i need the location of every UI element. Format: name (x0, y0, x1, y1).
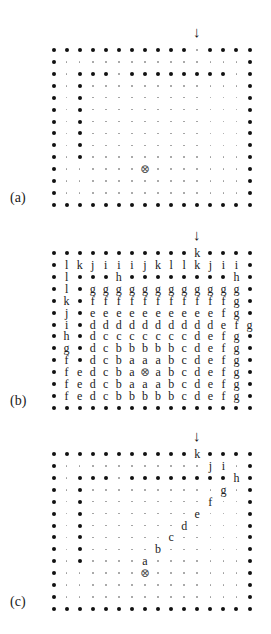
wall-dot (243, 520, 256, 532)
wall-dot (47, 390, 60, 402)
open-cell (99, 531, 112, 543)
panel-label: (a) (10, 191, 26, 205)
wall-dot (47, 56, 60, 68)
wall-dot (178, 68, 191, 80)
open-cell (204, 508, 217, 520)
wall-dot (47, 92, 60, 104)
wall-dot (125, 472, 138, 484)
open-cell (60, 496, 73, 508)
open-cell (99, 139, 112, 151)
distance-label: f (86, 295, 99, 307)
distance-label: b (112, 390, 125, 402)
open-cell (99, 80, 112, 92)
wall-dot (178, 44, 191, 56)
open-cell (217, 567, 230, 579)
open-cell (125, 531, 138, 543)
wall-dot (73, 342, 86, 354)
open-cell (152, 567, 165, 579)
wall-dot (73, 68, 86, 80)
wall-dot (125, 603, 138, 615)
wall-dot (243, 567, 256, 579)
open-cell (112, 496, 125, 508)
wall-dot (243, 591, 256, 603)
open-cell (152, 127, 165, 139)
distance-label: f (165, 295, 178, 307)
wall-dot (243, 354, 256, 366)
wall-dot (73, 448, 86, 460)
distance-label: g (178, 283, 191, 295)
distance-label: k (73, 259, 86, 271)
wall-dot (165, 448, 178, 460)
open-cell (138, 139, 151, 151)
open-cell (178, 543, 191, 555)
wall-dot (217, 44, 230, 56)
wall-dot (138, 402, 151, 414)
open-cell (178, 151, 191, 163)
open-cell (99, 116, 112, 128)
distance-label: f (204, 496, 217, 508)
wall-dot (47, 402, 60, 414)
wall-dot (178, 603, 191, 615)
open-cell (86, 163, 99, 175)
wall-dot (204, 68, 217, 80)
open-cell (191, 56, 204, 68)
open-cell (178, 187, 191, 199)
open-cell (60, 579, 73, 591)
wall-dot (47, 104, 60, 116)
wall-dot (217, 68, 230, 80)
open-cell (152, 151, 165, 163)
open-cell (191, 543, 204, 555)
open-cell (138, 56, 151, 68)
wall-dot (152, 402, 165, 414)
open-cell (99, 151, 112, 163)
distance-label: e (125, 307, 138, 319)
open-cell (217, 187, 230, 199)
open-cell (152, 484, 165, 496)
wall-dot (47, 543, 60, 555)
open-cell (60, 187, 73, 199)
wall-dot (47, 80, 60, 92)
open-cell (99, 104, 112, 116)
open-cell (86, 579, 99, 591)
distance-label: e (152, 307, 165, 319)
open-cell (165, 543, 178, 555)
open-cell (60, 175, 73, 187)
wall-dot (47, 508, 60, 520)
open-cell (230, 508, 243, 520)
open-cell (112, 508, 125, 520)
distance-label: i (217, 259, 230, 271)
distance-label: g (243, 319, 256, 331)
distance-label: g (86, 283, 99, 295)
open-cell (204, 520, 217, 532)
open-cell (73, 175, 86, 187)
open-cell (86, 56, 99, 68)
wall-dot (204, 199, 217, 211)
open-cell (230, 68, 243, 80)
open-cell (217, 80, 230, 92)
open-cell (112, 520, 125, 532)
wall-dot (243, 44, 256, 56)
wall-dot (243, 175, 256, 187)
distance-label: h (230, 472, 243, 484)
open-cell (204, 151, 217, 163)
open-cell (73, 187, 86, 199)
open-cell (99, 460, 112, 472)
wall-dot (243, 127, 256, 139)
wall-dot (165, 402, 178, 414)
wall-dot (99, 603, 112, 615)
distance-label: f (138, 295, 151, 307)
wall-dot (47, 567, 60, 579)
distance-label: f (191, 295, 204, 307)
wall-dot (243, 92, 256, 104)
distance-label: j (86, 259, 99, 271)
wall-dot (47, 199, 60, 211)
open-cell (217, 175, 230, 187)
wall-dot (125, 402, 138, 414)
open-cell (230, 139, 243, 151)
distance-label: f (217, 307, 230, 319)
open-cell (204, 92, 217, 104)
wall-dot (47, 579, 60, 591)
open-cell (86, 555, 99, 567)
open-cell (191, 567, 204, 579)
open-cell (112, 555, 125, 567)
